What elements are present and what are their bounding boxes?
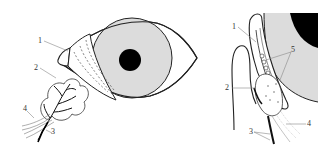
lacrimal-gland-section: [255, 74, 282, 116]
right-label-3: 3: [249, 128, 253, 136]
right-label-4: 4: [307, 120, 311, 128]
lacrimal-apparatus-figure: 1 2 3 4 1 2 3 4 5: [0, 0, 329, 154]
left-label-3: 3: [51, 128, 55, 136]
left-eye-frontal-diagram: [0, 0, 329, 154]
left-label-2: 2: [34, 64, 38, 72]
left-label-4: 4: [23, 105, 27, 113]
right-label-2: 2: [225, 84, 229, 92]
left-label-1: 1: [38, 37, 42, 45]
right-label-1: 1: [232, 23, 236, 31]
excretory-duct: [268, 116, 274, 144]
right-label-5: 5: [291, 46, 295, 54]
pupil: [119, 49, 141, 71]
